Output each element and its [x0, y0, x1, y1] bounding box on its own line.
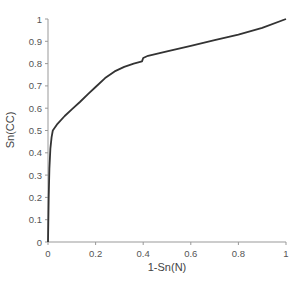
x-tick-label: 0.2: [89, 248, 102, 259]
roc-curve: [48, 19, 286, 242]
y-tick-label: 0: [37, 237, 42, 248]
y-tick-label: 0.4: [29, 147, 42, 158]
y-tick-label: 0.6: [29, 103, 42, 114]
y-tick-label: 1: [37, 14, 42, 25]
y-tick-label: 0.8: [29, 58, 42, 69]
y-tick-label: 0.1: [29, 214, 42, 225]
y-tick-label: 0.2: [29, 192, 42, 203]
x-tick-label: 0.8: [232, 248, 245, 259]
roc-chart: 00.10.20.30.40.50.60.70.80.91 00.20.40.6…: [0, 0, 302, 294]
y-tick-label: 0.7: [29, 80, 42, 91]
x-tick-label: 0.6: [184, 248, 197, 259]
x-tick-label: 0.4: [137, 248, 150, 259]
x-axis: 00.20.40.60.81: [45, 242, 288, 259]
x-axis-title: 1-Sn(N): [148, 261, 187, 273]
y-axis: 00.10.20.30.40.50.60.70.80.91: [29, 14, 48, 248]
y-tick-label: 0.3: [29, 170, 42, 181]
y-tick-label: 0.5: [29, 125, 42, 136]
y-axis-title: Sn(CC): [4, 112, 16, 149]
y-tick-label: 0.9: [29, 36, 42, 47]
x-tick-label: 0: [45, 248, 50, 259]
x-tick-label: 1: [283, 248, 288, 259]
